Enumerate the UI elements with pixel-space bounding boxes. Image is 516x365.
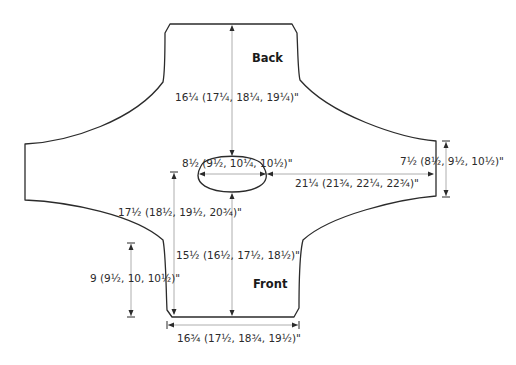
arrow-left-icon — [199, 172, 205, 177]
arrow-down-icon — [444, 190, 449, 196]
arrow-up-icon — [230, 25, 235, 31]
arrow-up-icon — [230, 193, 235, 199]
arrow-down-icon — [129, 310, 134, 316]
neck-width-label: 8½ (9½, 10¼, 10½)" — [182, 157, 293, 169]
back-piece-label: Back — [252, 51, 283, 65]
arrow-up-icon — [172, 173, 177, 179]
cuff-width-label: 7½ (8½, 9½, 10½)" — [400, 155, 504, 167]
arrow-left-icon — [267, 172, 273, 177]
front-length-label: 15½ (16½, 17½, 18½)" — [176, 249, 300, 261]
garment-outline — [25, 24, 436, 317]
arrow-right-icon — [260, 172, 266, 177]
arrow-left-icon — [168, 323, 174, 328]
arrow-up-icon — [444, 142, 449, 148]
arrow-down-icon — [172, 309, 177, 315]
arrow-right-icon — [292, 323, 298, 328]
side-length-label: 9 (9½, 10, 10½)" — [90, 272, 180, 284]
arrow-up-icon — [129, 244, 134, 250]
arrow-down-icon — [230, 150, 235, 156]
arrow-down-icon — [230, 310, 235, 316]
back-length-label: 16¼ (17¼, 18¼, 19¼)" — [175, 91, 299, 103]
sleeve-length-label: 21¼ (21¾, 22¼, 22¾)" — [295, 177, 419, 189]
arrow-right-icon — [428, 172, 434, 177]
front-total-length-label: 17½ (18½, 19½, 20¾)" — [118, 206, 242, 218]
hem-width-label: 16¾ (17½, 18¾, 19½)" — [177, 332, 301, 344]
front-piece-label: Front — [253, 277, 287, 291]
